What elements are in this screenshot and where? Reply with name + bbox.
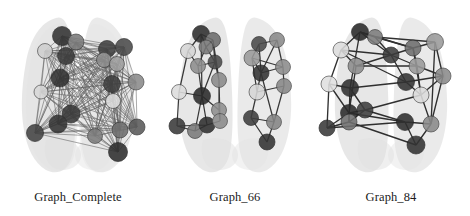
lung-graph-visualization-66 — [157, 0, 313, 190]
lung-graph-visualization-84 — [313, 0, 469, 190]
lung-graph-visualization-complete — [0, 0, 156, 190]
panel-graph-84: Graph_84 — [313, 0, 469, 216]
graph-svg-66 — [157, 0, 313, 190]
graph-svg-84 — [313, 0, 469, 190]
panel-caption-graph-66: Graph_66 — [157, 190, 313, 205]
panel-caption-graph-84: Graph_84 — [313, 190, 469, 205]
panel-graph-complete: Graph_Complete — [0, 0, 156, 216]
graph-svg-complete — [0, 0, 156, 190]
panel-graph-66: Graph_66 — [157, 0, 313, 216]
figure-root: Graph_Complete — [0, 0, 470, 216]
panel-caption-graph-complete: Graph_Complete — [0, 190, 156, 205]
